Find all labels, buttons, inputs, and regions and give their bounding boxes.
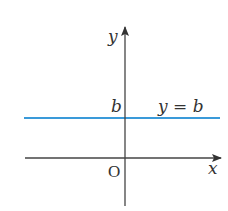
y-axis-label: y bbox=[107, 26, 118, 46]
coordinate-diagram: y x O b y = b bbox=[0, 0, 228, 211]
intercept-label: b bbox=[111, 96, 122, 116]
x-axis-label: x bbox=[208, 158, 218, 178]
origin-label: O bbox=[108, 162, 120, 181]
equation-label: y = b bbox=[157, 96, 204, 116]
